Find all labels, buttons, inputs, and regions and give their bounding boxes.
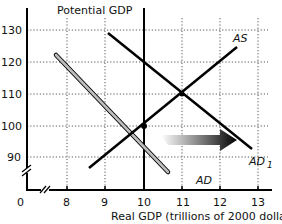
x-tick-10: 10: [137, 196, 151, 209]
shift-arrow-icon: [161, 129, 237, 151]
ad-label: AD: [195, 174, 212, 187]
ad1-label-main: AD: [248, 155, 265, 168]
x-axis-label: Real GDP (trillions of 2000 dollars): [111, 210, 282, 223]
gridlines: [27, 18, 268, 190]
ad1-label-sub: 1: [267, 160, 273, 170]
as-curve: [89, 47, 237, 168]
x-tick-8: 8: [63, 196, 70, 209]
x-tick-9: 9: [101, 196, 108, 209]
y-tick-130: 130: [1, 24, 22, 37]
ad-curve: [56, 55, 168, 172]
x-tick-13: 13: [251, 196, 265, 209]
x-tick-0: 0: [17, 196, 24, 209]
x-tick-11: 11: [176, 196, 190, 209]
x-tick-12: 12: [213, 196, 227, 209]
y-tick-100: 100: [1, 120, 22, 133]
potential-gdp-label: Potential GDP: [57, 4, 133, 17]
ad1-label: AD1: [248, 155, 273, 170]
y-tick-90: 90: [7, 151, 21, 164]
y-tick-120: 120: [1, 56, 22, 69]
y-tick-110: 110: [1, 88, 22, 101]
equilibrium-point-initial: [141, 123, 147, 129]
as-label: AS: [232, 32, 248, 45]
equilibrium-point-new: [180, 92, 185, 97]
chart: Potential GDP AS AD AD1 130 120 110 100 …: [0, 0, 282, 224]
